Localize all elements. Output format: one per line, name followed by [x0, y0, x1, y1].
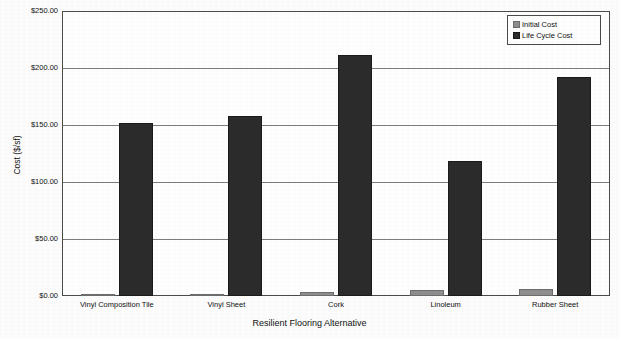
- x-axis-tick-label: Vinyl Sheet: [166, 300, 286, 310]
- x-axis: Vinyl Composition TileVinyl SheetCorkLin…: [62, 300, 610, 314]
- chart-legend: Initial Cost Life Cycle Cost: [507, 15, 601, 45]
- bar-life-cycle-cost: [228, 116, 262, 296]
- y-axis-tick-label: $100.00: [2, 178, 58, 186]
- bar-initial-cost: [300, 292, 334, 296]
- y-axis-tick-label: $250.00: [2, 7, 58, 15]
- x-axis-title: Resilient Flooring Alternative: [0, 318, 619, 328]
- legend-item-life-cycle-cost: Life Cycle Cost: [513, 30, 596, 41]
- legend-swatch-icon-initial-cost: [513, 21, 520, 28]
- legend-swatch-icon-life-cycle-cost: [513, 32, 520, 39]
- bar-initial-cost: [410, 290, 444, 296]
- y-axis-tick-label: $200.00: [2, 64, 58, 72]
- bar-initial-cost: [81, 294, 115, 296]
- y-axis-tick-label: $50.00: [2, 235, 58, 243]
- bars-layer: [62, 11, 610, 296]
- y-axis-tick-label: $150.00: [2, 121, 58, 129]
- x-axis-tick-label: Rubber Sheet: [495, 300, 615, 310]
- y-axis: $0.00$50.00$100.00$150.00$200.00$250.00: [0, 0, 58, 338]
- bar-life-cycle-cost: [557, 77, 591, 296]
- bar-initial-cost: [190, 294, 224, 296]
- bar-life-cycle-cost: [448, 161, 482, 296]
- bar-life-cycle-cost: [119, 123, 153, 296]
- y-axis-title: Cost ($/sf): [12, 110, 22, 200]
- x-axis-tick-label: Vinyl Composition Tile: [57, 300, 177, 310]
- x-axis-tick-label: Cork: [276, 300, 396, 310]
- legend-label-life-cycle-cost: Life Cycle Cost: [522, 31, 572, 40]
- x-axis-tick-label: Linoleum: [386, 300, 506, 310]
- bar-initial-cost: [519, 289, 553, 296]
- legend-item-initial-cost: Initial Cost: [513, 19, 596, 30]
- bar-life-cycle-cost: [338, 55, 372, 296]
- bar-chart: $0.00$50.00$100.00$150.00$200.00$250.00 …: [0, 0, 619, 338]
- y-axis-tick-label: $0.00: [2, 292, 58, 300]
- legend-label-initial-cost: Initial Cost: [522, 20, 557, 29]
